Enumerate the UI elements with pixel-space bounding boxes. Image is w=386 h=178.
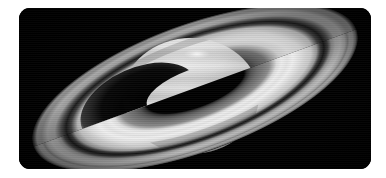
image-viewer [0,0,386,178]
saturn-photo-panel [19,8,371,169]
saturn-illustration [19,8,371,169]
vignette-overlay [19,8,371,169]
